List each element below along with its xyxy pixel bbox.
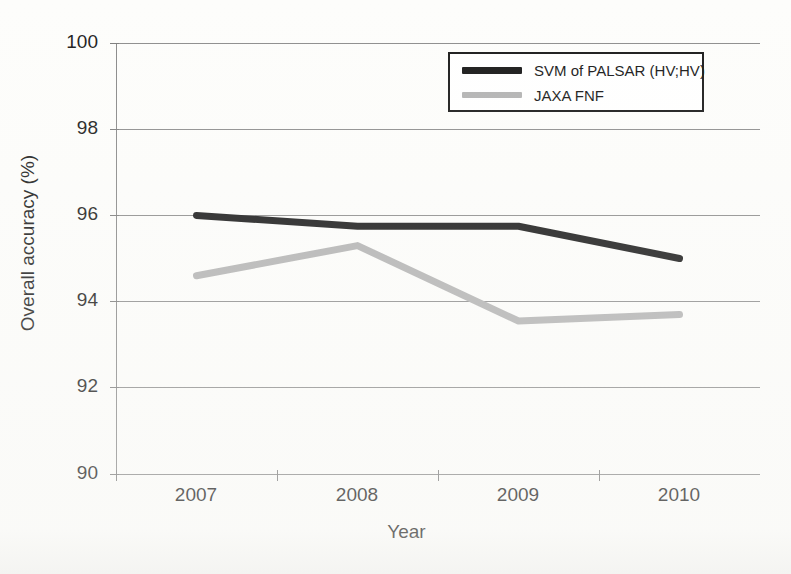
- legend-item-svm-palsar: SVM of PALSAR (HV;HV): [462, 60, 705, 80]
- legend-box: SVM of PALSAR (HV;HV) JAXA FNF: [448, 52, 704, 112]
- legend-label-jaxa-fnf: JAXA FNF: [534, 87, 604, 104]
- chart-figure: 100 98 96 94 92 90 2007 2008 2009 2010 Y…: [0, 0, 791, 574]
- series-line-svm-palsar: [197, 215, 680, 258]
- series-line-jaxa-fnf: [197, 246, 680, 321]
- legend-swatch-icon-jaxa-fnf: [462, 92, 522, 98]
- legend-swatch-icon-svm-palsar: [462, 67, 522, 74]
- legend-item-jaxa-fnf: JAXA FNF: [462, 85, 604, 105]
- legend-label-svm-palsar: SVM of PALSAR (HV;HV): [534, 62, 705, 79]
